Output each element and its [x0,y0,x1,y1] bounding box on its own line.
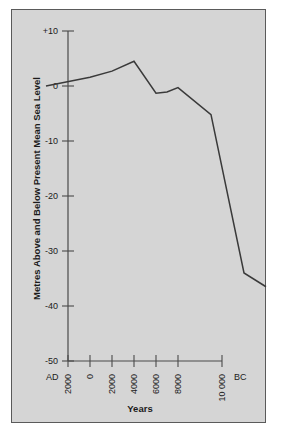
y-tick-label-4: -30 [45,246,58,256]
sea-level-data-line [46,61,266,287]
y-tick-label-0: +10 [43,26,58,36]
y-tick-label-5: -40 [45,301,58,311]
era-label-ad: AD [46,372,59,382]
y-axis-title: Metres Above and Below Present Mean Sea … [31,77,42,300]
x-tick-label-4: 6000 [151,374,161,394]
y-tick-label-3: -20 [45,191,58,201]
sea-level-chart: +10 0 -10 -20 -30 -40 -50 Metres Above a… [0,0,284,438]
era-label-bc: BC [234,372,247,382]
x-tick-label-5: 8000 [173,374,183,394]
y-axis-tick-labels: +10 0 -10 -20 -30 -40 -50 [43,26,58,366]
x-tick-label-3: 4000 [129,374,139,394]
y-tick-label-6: -50 [45,356,58,366]
x-axis-tick-labels: 2000 0 2000 4000 6000 8000 10 000 [63,374,227,402]
x-tick-label-0: 2000 [63,374,73,394]
x-tick-label-2: 2000 [107,374,117,394]
figure-container: +10 0 -10 -20 -30 -40 -50 Metres Above a… [0,0,284,438]
y-tick-label-1: 0 [53,81,58,91]
x-tick-label-6: 10 000 [217,374,227,402]
y-tick-label-2: -10 [45,136,58,146]
x-tick-label-1: 0 [85,374,95,379]
x-axis-title: Years [127,403,152,414]
